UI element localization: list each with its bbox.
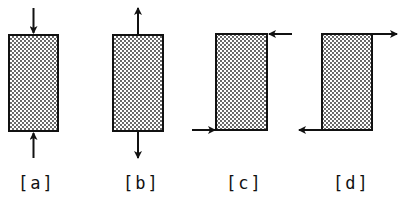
label-c: [c]: [226, 173, 263, 193]
specimen-c: [216, 34, 267, 130]
loading-diagram: [0, 0, 402, 197]
label-b: [b]: [123, 173, 160, 193]
panel-c: [192, 34, 292, 130]
label-d: [d]: [333, 173, 370, 193]
specimen-b: [113, 35, 163, 131]
panel-a: [9, 8, 58, 158]
panel-b: [113, 8, 163, 158]
specimen-d: [322, 34, 372, 130]
specimen-a: [9, 35, 58, 131]
panel-d: [299, 34, 397, 130]
label-a: [a]: [18, 173, 55, 193]
